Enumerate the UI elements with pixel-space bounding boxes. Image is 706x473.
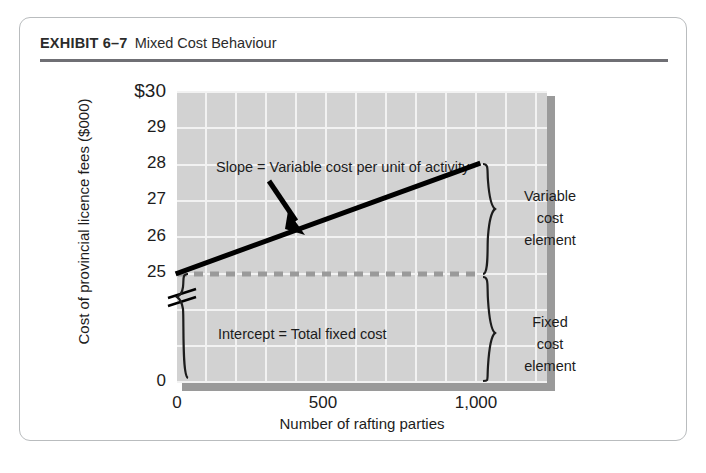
fixed-cost-brace [483, 277, 495, 381]
mixed-cost-chart: Cost of provincial licence fees ($000) $… [20, 63, 688, 441]
mixed-cost-line [178, 164, 478, 273]
exhibit-caption: Mixed Cost Behaviour [135, 35, 277, 51]
variable-cost-brace [483, 164, 495, 274]
chart-overlay [20, 63, 688, 441]
intercept-brace [177, 274, 188, 378]
exhibit-frame: EXHIBIT 6–7Mixed Cost Behaviour [19, 17, 687, 441]
exhibit-title: EXHIBIT 6–7Mixed Cost Behaviour [40, 34, 668, 52]
title-rule [40, 59, 668, 62]
exhibit-label: EXHIBIT 6–7 [40, 35, 128, 51]
